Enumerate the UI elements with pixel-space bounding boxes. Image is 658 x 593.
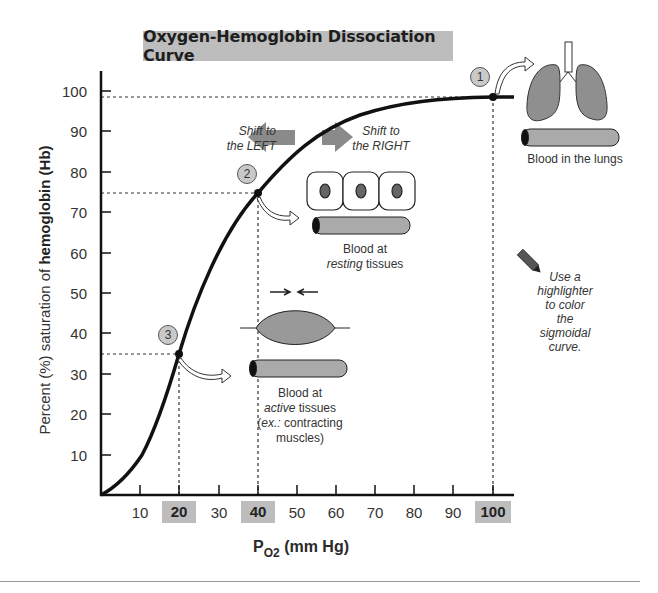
marker-1: 1	[470, 67, 490, 87]
y-tick-label: 80	[47, 164, 87, 181]
highlighter-note-line: to color	[530, 298, 600, 312]
x-tick-label: 60	[319, 504, 353, 521]
contracting-muscle-icon	[240, 289, 350, 345]
tissue-cells-icon	[307, 172, 415, 210]
y-tick-label: 90	[47, 123, 87, 140]
caption-active-italic: active	[264, 401, 295, 415]
y-tick-label: 20	[47, 406, 87, 423]
shift-left-line2: the LEFT	[206, 139, 276, 154]
y-tick-marks	[101, 91, 111, 455]
caption-resting-line1: Blood at	[310, 242, 420, 257]
curved-arrow-icon	[495, 57, 534, 94]
highlighter-note-line: curve.	[530, 340, 600, 354]
blood-vessel-resting-icon	[313, 217, 411, 234]
point-2	[254, 189, 262, 197]
marker-2: 2	[237, 164, 257, 184]
caption-lungs: Blood in the lungs	[515, 152, 635, 167]
x-tick-label: 80	[397, 504, 431, 521]
marker-3: 3	[158, 325, 178, 345]
caption-resting: Blood at resting tissues	[310, 242, 420, 272]
highlighter-note-line: the	[530, 312, 600, 326]
caption-active-contracting: contracting	[281, 416, 343, 430]
x-tick-label-highlighted: 40	[241, 501, 275, 523]
bottom-divider	[0, 581, 640, 582]
caption-resting-rest: tissues	[363, 257, 404, 271]
caption-active-rest: tissues	[295, 401, 336, 415]
x-tick-marks	[140, 485, 493, 495]
shift-left-label: Shift to the LEFT	[206, 124, 276, 154]
point-3	[175, 350, 183, 358]
caption-active-ex: ex.:	[261, 416, 280, 430]
x-tick-label: 30	[202, 504, 236, 521]
y-tick-label: 60	[47, 245, 87, 262]
highlighter-note-line: highlighter	[530, 284, 600, 298]
y-tick-label: 70	[47, 204, 87, 221]
highlighter-note-line: sigmoidal	[530, 326, 600, 340]
caption-resting-italic: resting	[327, 257, 363, 271]
shift-left-line1: Shift to	[206, 124, 276, 139]
blood-vessel-active-icon	[250, 360, 348, 377]
blood-vessel-lungs-icon	[522, 129, 620, 146]
y-tick-label: 30	[47, 366, 87, 383]
x-tick-label-highlighted: 20	[162, 501, 196, 523]
x-tick-label-highlighted: 100	[475, 501, 511, 523]
x-axis-label-main: P	[253, 538, 264, 555]
caption-active-line1: Blood at	[240, 386, 360, 401]
caption-active-line4: muscles)	[240, 431, 360, 446]
x-tick-label: 90	[436, 504, 470, 521]
caption-active: Blood at active tissues (ex.: contractin…	[240, 386, 360, 446]
shift-right-line1: Shift to	[346, 124, 416, 139]
y-tick-label: 50	[47, 285, 87, 302]
y-tick-label: 100	[47, 83, 87, 100]
lungs-icon	[527, 42, 607, 121]
y-tick-label: 10	[47, 447, 87, 464]
x-tick-label: 50	[280, 504, 314, 521]
shift-right-label: Shift to the RIGHT	[346, 124, 416, 154]
x-tick-label: 70	[358, 504, 392, 521]
shift-right-line2: the RIGHT	[346, 139, 416, 154]
curved-arrow-icon	[178, 358, 231, 383]
x-axis-label-sub: O2	[264, 546, 280, 560]
highlighter-note-line: Use a	[530, 270, 600, 284]
highlighter-note: Use a highlighter to color the sigmoidal…	[530, 270, 600, 354]
x-axis-label: PO2 (mm Hg)	[253, 538, 349, 560]
y-tick-label: 40	[47, 325, 87, 342]
curved-arrow-icon	[257, 197, 299, 225]
x-axis-label-unit: (mm Hg)	[280, 538, 349, 555]
x-tick-label: 10	[123, 504, 157, 521]
